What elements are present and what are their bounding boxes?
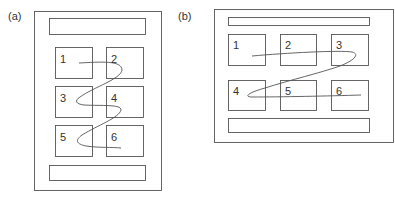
panel-b-header-bar <box>229 18 370 26</box>
panel-b-page-frame <box>215 10 394 143</box>
panel-a-footer-bar <box>50 166 146 181</box>
panel-b-box-3-number: 3 <box>336 39 342 51</box>
panel-a-box-4-number: 4 <box>111 92 117 104</box>
panel-b-box-1-number: 1 <box>233 39 239 51</box>
panel-b-box-6-number: 6 <box>336 85 342 97</box>
panel-a-box-3-number: 3 <box>60 92 66 104</box>
panel-a-box-1-number: 1 <box>60 53 66 65</box>
panel-a-box-5-number: 5 <box>60 131 66 143</box>
panel-a-header-bar <box>50 19 146 35</box>
panel-a-box-2-number: 2 <box>111 53 117 65</box>
panel-b-footer-bar <box>229 119 370 133</box>
panel-b <box>215 10 394 143</box>
panel-a-box-6-number: 6 <box>111 131 117 143</box>
panel-b-box-2-number: 2 <box>285 39 291 51</box>
layout-diagram: 1 2 3 4 5 6 1 2 3 4 5 6 <box>0 0 395 199</box>
panel-b-reading-path <box>248 51 361 97</box>
panel-a <box>35 12 162 191</box>
panel-b-box-5-number: 5 <box>285 85 291 97</box>
panel-b-box-4-number: 4 <box>233 85 239 97</box>
panel-a-page-frame <box>35 12 162 191</box>
